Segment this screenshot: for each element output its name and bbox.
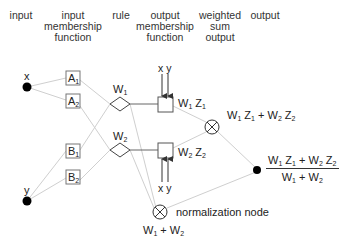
output-mf-bottom-inputs: x y [158,182,171,194]
mf-label-b1: B1 [68,145,79,161]
input-node-y [23,197,32,206]
sum-node-icon [205,120,219,134]
network-diagram [0,0,349,248]
output-mf-box-1 [158,97,173,112]
rule-label-w2: W2 [113,130,127,146]
input-label-x: x [24,70,30,82]
output-mf-label-w2z2: W2 Z2 [178,146,206,162]
rule-label-w1: W1 [113,83,127,99]
output-mf-box-2 [158,143,173,158]
final-output-formula: W1 Z1 + W2 Z2 W1 + W2 [266,154,339,184]
output-mf-top-inputs: x y [158,62,171,74]
input-label-y: y [24,184,30,196]
normalization-node-label: W1 + W2 [143,224,184,240]
normalization-node-icon [153,205,167,219]
mf-label-a2: A2 [68,95,79,111]
final-output-denominator: W1 + W2 [266,169,339,184]
output-node [253,166,261,174]
mf-label-a1: A1 [68,72,79,88]
normalization-caption: normalization node [176,206,269,218]
final-output-numerator: W1 Z1 + W2 Z2 [266,154,339,169]
output-mf-label-w1z1: W1 Z1 [178,97,206,113]
input-node-x [23,83,32,92]
mf-label-b2: B2 [68,171,79,187]
sum-node-label: W1 Z1 + W2 Z2 [227,109,296,125]
rule-diamond-w1 [110,97,130,111]
